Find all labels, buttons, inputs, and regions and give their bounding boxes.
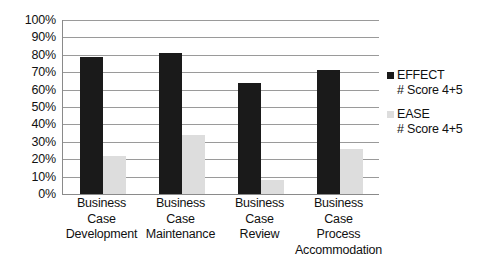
y-axis-tick-label: 50% xyxy=(0,100,56,114)
bar-ease-0 xyxy=(103,156,126,194)
bars-layer xyxy=(63,20,379,194)
x-axis-category-labels: BusinessCaseDevelopmentBusinessCaseMaint… xyxy=(62,196,378,266)
bar-chart-figure: 100%90%80%70%60%50%40%30%20%10%0% Busine… xyxy=(0,0,487,268)
legend-swatch-icon xyxy=(387,111,394,118)
bar-effect-2 xyxy=(238,83,261,194)
y-axis-tick-label: 70% xyxy=(0,65,56,79)
legend-swatch-icon xyxy=(387,72,394,79)
bar-group xyxy=(159,20,205,194)
legend-entry-ease[interactable]: EASE# Score 4+5 xyxy=(387,107,487,137)
category-label-line: Business xyxy=(287,196,390,212)
y-axis-tick-label: 100% xyxy=(0,13,56,27)
bar-group xyxy=(80,20,126,194)
y-axis: 100%90%80%70%60%50%40%30%20%10%0% xyxy=(0,13,56,201)
category-label-line: Process xyxy=(287,227,390,243)
y-axis-tick-label: 90% xyxy=(0,30,56,44)
bar-effect-1 xyxy=(159,53,182,194)
bar-ease-1 xyxy=(182,135,205,194)
legend-series-sublabel: # Score 4+5 xyxy=(397,83,487,98)
y-axis-tick-label: 20% xyxy=(0,152,56,166)
y-axis-tick-label: 10% xyxy=(0,170,56,184)
bar-effect-0 xyxy=(80,57,103,194)
y-axis-tick-label: 40% xyxy=(0,117,56,131)
chart-legend: EFFECT# Score 4+5EASE# Score 4+5 xyxy=(387,68,487,146)
plot-area xyxy=(62,20,379,195)
category-label-line: Accommodation xyxy=(287,243,390,259)
legend-series-name: EFFECT xyxy=(397,68,444,83)
y-axis-tick-label: 0% xyxy=(0,187,56,201)
bar-effect-3 xyxy=(317,70,340,194)
bar-group xyxy=(238,20,284,194)
y-axis-tick-label: 80% xyxy=(0,48,56,62)
bar-ease-2 xyxy=(261,180,284,194)
y-axis-tick-label: 60% xyxy=(0,83,56,97)
legend-series-sublabel: # Score 4+5 xyxy=(397,122,487,137)
bar-group xyxy=(317,20,363,194)
category-label: BusinessCaseProcessAccommodation xyxy=(287,196,390,258)
y-axis-tick-label: 30% xyxy=(0,135,56,149)
legend-entry-effect[interactable]: EFFECT# Score 4+5 xyxy=(387,68,487,98)
category-label-line: Case xyxy=(287,212,390,228)
legend-series-name: EASE xyxy=(397,107,430,122)
bar-ease-3 xyxy=(340,149,363,194)
